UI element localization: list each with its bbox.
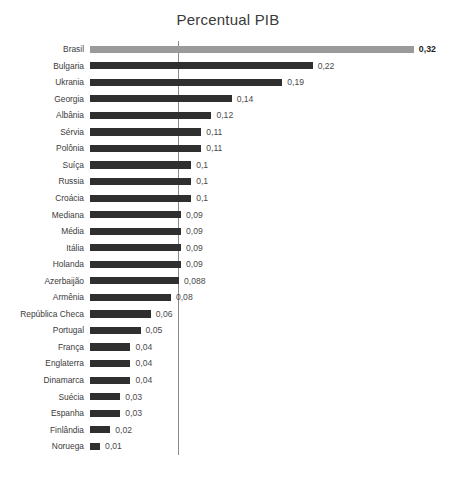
value-label: 0,22 [318, 58, 335, 75]
category-label: Brasil [0, 41, 84, 58]
bar-row: Suíça0,1 [0, 157, 456, 174]
bar [90, 377, 130, 384]
category-label: Croácia [0, 190, 84, 207]
bar-row: Mediana0,09 [0, 207, 456, 224]
bar [90, 277, 179, 284]
value-label: 0,04 [135, 372, 152, 389]
category-label: Sérvia [0, 124, 84, 141]
category-label: Bulgaria [0, 58, 84, 75]
bar [90, 393, 120, 400]
value-label: 0,03 [125, 405, 142, 422]
value-label: 0,11 [206, 140, 222, 157]
category-label: Mediana [0, 207, 84, 224]
bar-row: Dinamarca0,04 [0, 372, 456, 389]
category-label: Dinamarca [0, 372, 84, 389]
value-label: 0,09 [186, 256, 203, 273]
category-label: Armênia [0, 289, 84, 306]
value-label: 0,12 [216, 107, 233, 124]
bar-row: Russia0,1 [0, 173, 456, 190]
bar-row: Noruega0,01 [0, 438, 456, 455]
bar [90, 426, 110, 433]
bar [90, 128, 201, 135]
bar [90, 161, 191, 168]
bar-row: França0,04 [0, 339, 456, 356]
bar-row: Sérvia0,11 [0, 124, 456, 141]
bar-row: Croácia0,1 [0, 190, 456, 207]
category-label: França [0, 339, 84, 356]
value-label: 0,08 [176, 289, 193, 306]
bar [90, 62, 313, 69]
value-label: 0,05 [146, 322, 163, 339]
bar-row: Polônia0,11 [0, 140, 456, 157]
category-label: Noruega [0, 438, 84, 455]
bar-row: Azerbaijão0,088 [0, 273, 456, 290]
bar [90, 310, 151, 317]
category-label: Portugal [0, 322, 84, 339]
bar [90, 244, 181, 251]
bar-row: Finlândia0,02 [0, 422, 456, 439]
bar [90, 261, 181, 268]
bar [90, 46, 414, 53]
category-label: Finlândia [0, 422, 84, 439]
category-label: Georgia [0, 91, 84, 108]
bar [90, 343, 130, 350]
category-label: Itália [0, 240, 84, 257]
category-label: Albânia [0, 107, 84, 124]
value-label: 0,1 [196, 157, 208, 174]
bar [90, 294, 171, 301]
bar [90, 95, 232, 102]
value-label: 0,01 [105, 438, 122, 455]
value-label: 0,088 [184, 273, 206, 290]
value-label: 0,14 [237, 91, 254, 108]
category-label: Polônia [0, 140, 84, 157]
bar-row: República Checa0,06 [0, 306, 456, 323]
bar [90, 327, 141, 334]
bar-row: Georgia0,14 [0, 91, 456, 108]
bar-row: Holanda0,09 [0, 256, 456, 273]
category-label: República Checa [0, 306, 84, 323]
bar-row: Suécia0,03 [0, 389, 456, 406]
category-label: Russia [0, 173, 84, 190]
value-label: 0,03 [125, 389, 142, 406]
value-label: 0,32 [419, 41, 436, 58]
category-label: Englaterra [0, 355, 84, 372]
value-label: 0,1 [196, 173, 208, 190]
bar [90, 195, 191, 202]
bar-row: Espanha0,03 [0, 405, 456, 422]
value-label: 0,02 [115, 422, 132, 439]
category-label: Holanda [0, 256, 84, 273]
bar-row: Armênia0,08 [0, 289, 456, 306]
value-label: 0,06 [156, 306, 173, 323]
bar [90, 211, 181, 218]
category-label: Suíça [0, 157, 84, 174]
category-label: Azerbaijão [0, 273, 84, 290]
bar-row: Média0,09 [0, 223, 456, 240]
bar-row: Albânia0,12 [0, 107, 456, 124]
chart-page: Percentual PIB Brasil0,32Bulgaria0,22Ukr… [0, 0, 456, 477]
bar [90, 79, 282, 86]
bar-row: Portugal0,05 [0, 322, 456, 339]
category-label: Espanha [0, 405, 84, 422]
page-title: Percentual PIB [0, 11, 456, 28]
bar-row: Brasil0,32 [0, 41, 456, 58]
bar-row: Ukrania0,19 [0, 74, 456, 91]
value-label: 0,04 [135, 355, 152, 372]
bar [90, 410, 120, 417]
value-label: 0,1 [196, 190, 208, 207]
plot-area: Brasil0,32Bulgaria0,22Ukrania0,19Georgia… [0, 41, 456, 461]
bar [90, 360, 130, 367]
value-label: 0,09 [186, 223, 203, 240]
bar [90, 112, 211, 119]
value-label: 0,19 [287, 74, 304, 91]
value-label: 0,09 [186, 207, 203, 224]
bar-row: Itália0,09 [0, 240, 456, 257]
bar-row: Bulgaria0,22 [0, 58, 456, 75]
category-label: Ukrania [0, 74, 84, 91]
bar-row: Englaterra0,04 [0, 355, 456, 372]
category-label: Média [0, 223, 84, 240]
category-label: Suécia [0, 389, 84, 406]
value-label: 0,04 [135, 339, 152, 356]
value-label: 0,11 [206, 124, 222, 141]
value-label: 0,09 [186, 240, 203, 257]
bar [90, 178, 191, 185]
